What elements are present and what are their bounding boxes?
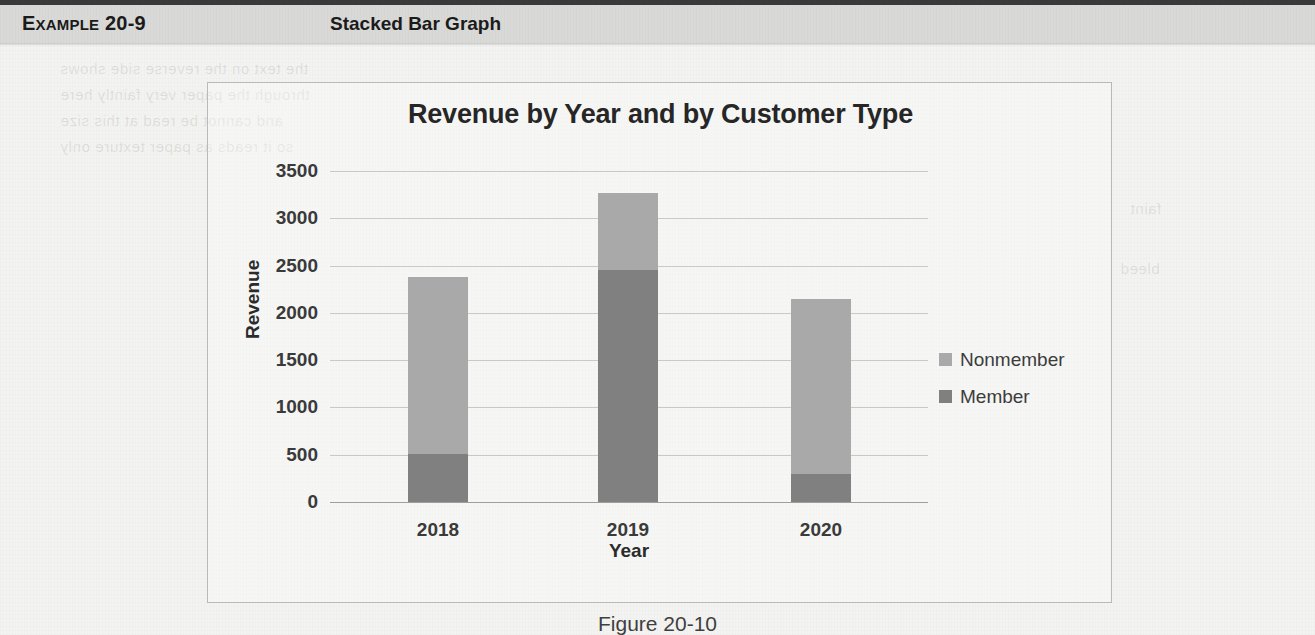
y-axis-tick-label: 3500: [276, 160, 318, 182]
chart-title: Revenue by Year and by Customer Type: [208, 99, 1113, 130]
bar-group[interactable]: 2020: [791, 171, 851, 502]
x-axis-tick-label: 2018: [417, 519, 459, 541]
ghost-text: bleed: [1120, 260, 1160, 277]
bar-segment-member[interactable]: [791, 474, 851, 502]
ghost-text: the text on the reverse side shows: [60, 60, 308, 77]
example-label-smallcaps: XAMPLE: [36, 16, 100, 33]
ghost-text: faint: [1130, 200, 1161, 217]
x-axis-line: 0: [330, 502, 928, 503]
chart-frame: Revenue by Year and by Customer Type Rev…: [207, 82, 1112, 603]
example-label: EXAMPLE 20-9: [22, 12, 146, 35]
example-header-band: [0, 5, 1315, 43]
chart-legend: NonmemberMember: [939, 341, 1065, 415]
y-axis-tick-label: 500: [286, 444, 318, 466]
example-title: Stacked Bar Graph: [330, 13, 501, 35]
x-axis-tick-label: 2019: [607, 519, 649, 541]
y-axis-tick-label: 0: [307, 491, 318, 513]
figure-caption: Figure 20-10: [0, 612, 1315, 635]
bar-group[interactable]: 2018: [408, 171, 468, 502]
y-axis-tick-label: 2500: [276, 255, 318, 277]
legend-swatch-icon: [939, 353, 952, 366]
example-label-first: E: [22, 12, 36, 34]
x-axis-tick-label: 2020: [800, 519, 842, 541]
bar-group[interactable]: 2019: [598, 171, 658, 502]
bar-segment-nonmember[interactable]: [408, 277, 468, 453]
x-axis-title: Year: [330, 540, 928, 562]
y-axis-tick-label: 2000: [276, 302, 318, 324]
legend-swatch-icon: [939, 390, 952, 403]
plot-area: 0500100015002000250030003500201820192020: [330, 171, 928, 502]
legend-item[interactable]: Member: [939, 378, 1065, 415]
bar-segment-member[interactable]: [598, 270, 658, 502]
y-axis-tick-label: 1500: [276, 349, 318, 371]
y-axis-tick-label: 3000: [276, 207, 318, 229]
legend-item[interactable]: Nonmember: [939, 341, 1065, 378]
example-number: 20-9: [99, 12, 146, 34]
header-band-shadow: [0, 43, 1315, 46]
bar-segment-nonmember[interactable]: [791, 299, 851, 474]
y-axis-tick-label: 1000: [276, 396, 318, 418]
legend-label: Member: [960, 386, 1030, 408]
bar-segment-member[interactable]: [408, 454, 468, 502]
y-axis-title: Revenue: [242, 260, 264, 339]
bar-segment-nonmember[interactable]: [598, 193, 658, 271]
legend-label: Nonmember: [960, 349, 1065, 371]
